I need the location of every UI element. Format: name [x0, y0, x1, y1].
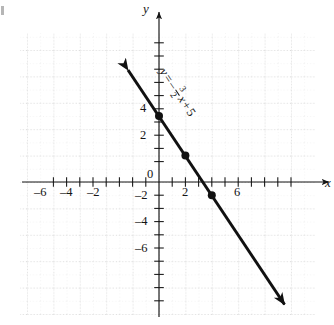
- origin-label: 0: [147, 168, 153, 181]
- y-axis-letter: y: [143, 2, 149, 15]
- x-tick-label--4: –4: [60, 186, 73, 199]
- graph-figure: y x 0 –6 –4 –2 2 6 4 2 –2 –4 –6 y = – 3 …: [0, 0, 334, 325]
- point-0-5: [155, 112, 163, 120]
- x-tick-label--2: –2: [87, 186, 100, 199]
- y-tick-label--2: –2: [135, 189, 148, 202]
- coordinate-plane: [0, 0, 334, 325]
- x-axis-letter: x: [325, 176, 331, 189]
- y-tick-label-4: 4: [140, 102, 146, 115]
- x-tick-label--6: –6: [34, 186, 47, 199]
- y-tick-label--4: –4: [135, 215, 148, 228]
- y-tick-label--6: –6: [135, 242, 148, 255]
- point-4-minus1: [208, 191, 216, 199]
- x-tick-label-2: 2: [182, 186, 188, 199]
- y-tick-label-2: 2: [140, 129, 146, 142]
- point-2-2: [181, 152, 189, 160]
- x-tick-label-6: 6: [234, 186, 240, 199]
